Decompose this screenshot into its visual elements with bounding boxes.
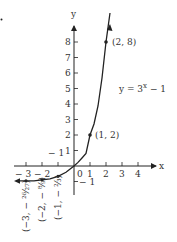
svg-text:8: 8 (65, 37, 71, 47)
y-ticks (74, 42, 78, 182)
svg-text:4: 4 (135, 169, 141, 179)
svg-text:2: 2 (103, 169, 109, 179)
svg-text:− 1: − 1 (79, 177, 95, 187)
x-axis-label: x (159, 161, 164, 171)
svg-text:− 3: − 3 (15, 169, 31, 179)
stray-dot (1, 19, 3, 21)
point-label-neg2: (−2, − ⁸⁄₉) (37, 177, 47, 222)
y-axis-label: y (70, 9, 77, 19)
y-tick-labels: 1 2 3 4 5 6 7 8 − 1 − 1 (48, 37, 95, 187)
point-label-neg1: (−1, − ²⁄₃) (53, 175, 63, 220)
left-arrowhead (14, 178, 20, 183)
svg-text:3: 3 (65, 115, 71, 125)
point-label-1-2: (1, 2) (95, 130, 119, 140)
svg-text:1: 1 (65, 146, 71, 156)
svg-text:2: 2 (65, 130, 71, 140)
svg-text:5: 5 (65, 84, 71, 94)
exponential-graph: x y − 3 − 2 0 1 2 3 4 1 2 3 4 5 (0, 0, 177, 242)
svg-text:− 1: − 1 (48, 148, 64, 158)
svg-text:3: 3 (119, 169, 125, 179)
svg-text:4: 4 (65, 99, 71, 109)
svg-text:6: 6 (65, 68, 71, 78)
x-tick-labels: − 3 − 2 0 1 2 3 4 (15, 169, 141, 179)
point-label-2-8: (2, 8) (112, 37, 136, 47)
equation-label: y = 3x − 1 (118, 82, 166, 94)
point-label-neg3: (−3, − ²⁶⁄₂₇) (21, 180, 31, 232)
x-ticks (26, 162, 138, 166)
svg-text:7: 7 (65, 53, 71, 63)
